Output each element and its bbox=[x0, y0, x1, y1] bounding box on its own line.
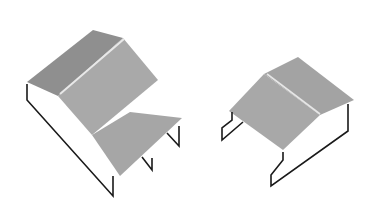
gable-roof-structure bbox=[222, 57, 354, 186]
diagram-canvas bbox=[0, 0, 376, 216]
stepped-roof-structure bbox=[27, 30, 182, 196]
